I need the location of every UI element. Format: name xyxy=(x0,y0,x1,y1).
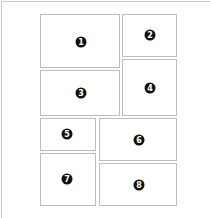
panel-5[interactable]: 5 xyxy=(40,118,96,151)
panel-1[interactable]: 1 xyxy=(40,14,120,68)
panel-2[interactable]: 2 xyxy=(122,14,177,57)
number-badge-6: 6 xyxy=(134,135,145,146)
number-badge-3: 3 xyxy=(76,88,87,99)
panel-3[interactable]: 3 xyxy=(40,70,120,116)
panel-4[interactable]: 4 xyxy=(122,59,177,116)
number-badge-4: 4 xyxy=(145,83,156,94)
number-badge-8: 8 xyxy=(134,180,145,191)
number-badge-5: 5 xyxy=(62,129,73,140)
number-badge-7: 7 xyxy=(62,174,73,185)
number-badge-1: 1 xyxy=(76,37,87,48)
panel-7[interactable]: 7 xyxy=(40,153,96,206)
number-badge-2: 2 xyxy=(145,30,156,41)
panel-8[interactable]: 8 xyxy=(99,163,177,206)
panel-6[interactable]: 6 xyxy=(99,118,177,161)
